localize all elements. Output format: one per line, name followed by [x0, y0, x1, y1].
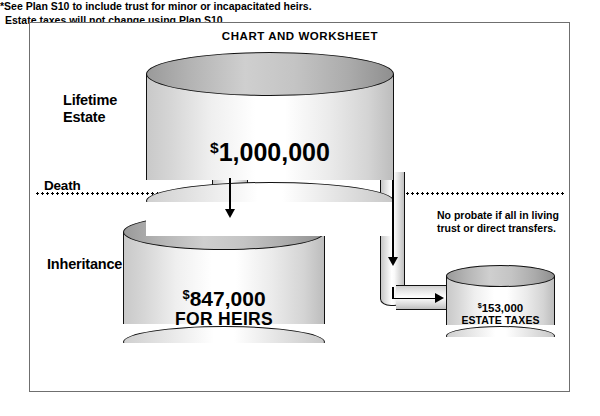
amount-text: 153,000 [482, 302, 524, 314]
chart-title: CHART AND WORKSHEET [0, 30, 600, 42]
sub-label-for-heirs: FOR HEIRS [123, 310, 325, 328]
currency-symbol: $ [182, 287, 189, 302]
arrow-down-estate-taxes-icon [392, 180, 394, 258]
label-lifetime-estate: Lifetime Estate [63, 92, 117, 125]
cylinder-top [146, 52, 394, 96]
amount-text: 1,000,000 [219, 138, 330, 166]
arrow-down-inheritance-icon [229, 178, 231, 210]
label-lifetime-line1: Lifetime [63, 92, 117, 108]
sub-label-estate-taxes: ESTATE TAXES [446, 315, 555, 326]
cylinder-estate-taxes: $153,000ESTATE TAXES [446, 265, 555, 320]
footnote-line1: *See Plan S10 to include trust for minor… [0, 0, 312, 12]
label-lifetime-line2: Estate [63, 109, 105, 125]
amount-text: 847,000 [190, 287, 266, 310]
currency-symbol: $ [210, 139, 219, 156]
cylinder-mask [146, 202, 394, 236]
cylinder-top [446, 265, 555, 287]
arrow-stem-horizontal [392, 298, 436, 300]
label-inheritance: Inheritance [47, 256, 122, 273]
cylinder-mask [446, 337, 555, 359]
cylinder-lifetime-estate: $1,000,000 [146, 52, 394, 180]
value-inheritance: $847,000FOR HEIRS [123, 288, 325, 328]
diagram-canvas: CHART AND WORKSHEET Lifetime Estate Deat… [0, 0, 600, 416]
value-estate-taxes: $153,000ESTATE TAXES [446, 303, 555, 326]
value-lifetime-estate: $1,000,000 [146, 140, 394, 166]
annotation-no-probate: No probate if all in living trust or dir… [437, 209, 562, 236]
cylinder-mask [123, 343, 325, 373]
